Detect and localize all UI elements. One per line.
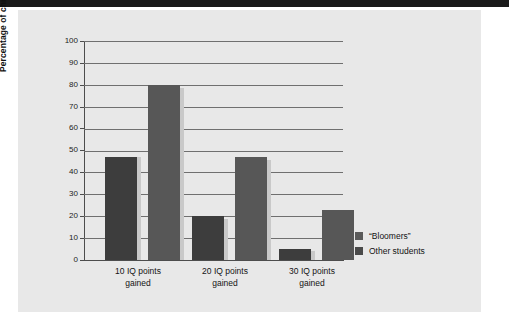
- gridline: [84, 107, 343, 108]
- y-axis-title: Percentage of children: [0, 0, 8, 72]
- bar-bloomers-10iq: [105, 157, 137, 260]
- x-axis-line: [84, 260, 344, 261]
- y-tick-label: 40: [56, 168, 78, 176]
- y-tick-label: 90: [56, 59, 78, 67]
- category-label-line1: 10 IQ points: [100, 265, 176, 277]
- bar-other-students-10iq: [148, 85, 180, 260]
- y-tick-label: 20: [56, 212, 78, 220]
- bar-other-students-30iq: [322, 210, 354, 260]
- y-tick-label: 50: [56, 146, 78, 154]
- category-label-line2: gained: [274, 277, 350, 289]
- legend-label-bloomers: “Bloomers”: [369, 231, 411, 241]
- chart-legend: “Bloomers” Other students: [355, 228, 425, 258]
- x-axis-category-label-30iq: 30 IQ points gained: [274, 265, 350, 289]
- gridline: [84, 151, 343, 152]
- y-tick-label: 80: [56, 81, 78, 89]
- gridline: [84, 63, 343, 64]
- category-label-line1: 30 IQ points: [274, 265, 350, 277]
- gridline: [84, 85, 343, 86]
- y-tick-label: 100: [56, 37, 78, 45]
- legend-item-other-students: Other students: [355, 243, 425, 258]
- bar-bloomers-30iq: [279, 249, 311, 260]
- category-label-line2: gained: [100, 277, 176, 289]
- category-label-line2: gained: [187, 277, 263, 289]
- chart-figure-panel: Percentage of children 100 90 80 70 60 5…: [18, 10, 481, 312]
- legend-label-other-students: Other students: [369, 246, 425, 256]
- gridline: [84, 41, 343, 42]
- bar-other-students-20iq: [235, 157, 267, 260]
- y-tick-label: 0: [56, 256, 78, 264]
- legend-item-bloomers: “Bloomers”: [355, 228, 425, 243]
- y-tick-label: 30: [56, 190, 78, 198]
- y-tick-mark: [80, 260, 84, 261]
- top-black-rule: [0, 0, 509, 7]
- x-axis-category-label-20iq: 20 IQ points gained: [187, 265, 263, 289]
- bar-bloomers-20iq: [192, 216, 224, 260]
- gridline: [84, 129, 343, 130]
- legend-swatch-bloomers-icon: [355, 232, 363, 240]
- category-label-line1: 20 IQ points: [187, 265, 263, 277]
- plot-area: [84, 41, 343, 260]
- x-axis-category-label-10iq: 10 IQ points gained: [100, 265, 176, 289]
- y-tick-label: 60: [56, 124, 78, 132]
- legend-swatch-other-students-icon: [355, 247, 363, 255]
- y-tick-label: 10: [56, 234, 78, 242]
- y-tick-label: 70: [56, 103, 78, 111]
